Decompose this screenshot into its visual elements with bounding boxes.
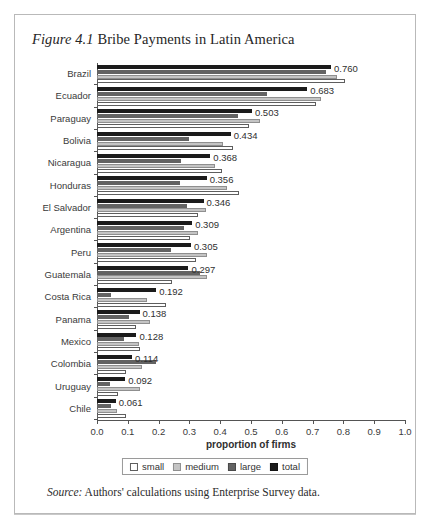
bar-large — [97, 204, 187, 208]
y-axis-tick — [94, 151, 97, 152]
category-label: Colombia — [11, 358, 91, 369]
bar-large — [97, 181, 180, 185]
bar-value-label: 0.114 — [135, 354, 158, 364]
bar-small — [97, 169, 222, 173]
x-axis-tick-label: 0.8 — [337, 426, 350, 437]
y-axis-tick — [94, 307, 97, 308]
bar-value-label: 0.061 — [119, 398, 143, 408]
category-label: Costa Rica — [11, 291, 91, 302]
bar-small — [97, 146, 233, 150]
bar-value-label: 0.346 — [207, 198, 231, 208]
bar-medium — [97, 320, 150, 324]
bar-small — [97, 258, 196, 262]
bar-medium — [97, 342, 139, 346]
bar-small — [97, 347, 140, 351]
y-axis-tick — [94, 84, 97, 85]
bar-group: Honduras0.356 — [97, 176, 405, 195]
figure-title-text: Bribe Payments in Latin America — [97, 31, 294, 47]
bar-value-label: 0.138 — [143, 309, 167, 319]
bar-group: Argentina0.309 — [97, 221, 405, 240]
y-axis-tick — [94, 218, 97, 219]
bar-value-label: 0.128 — [139, 332, 163, 342]
x-axis-tick — [128, 420, 129, 424]
bar-total — [97, 109, 252, 113]
bar-group: Paraguay0.503 — [97, 109, 405, 128]
x-axis-title: proportion of firms — [97, 439, 405, 450]
bar-small — [97, 79, 345, 83]
bar-medium — [97, 142, 223, 146]
x-axis-tick-label: 0.5 — [244, 426, 257, 437]
x-axis-tick — [405, 420, 406, 424]
legend-item-total: total — [270, 461, 300, 472]
bar-group: Colombia0.114 — [97, 355, 405, 374]
category-label: Argentina — [11, 224, 91, 235]
y-axis-tick — [94, 129, 97, 130]
bar-group: Guatemala0.297 — [97, 266, 405, 285]
x-axis-tick — [313, 420, 314, 424]
bar-total — [97, 176, 207, 180]
y-axis-tick — [94, 397, 97, 398]
bar-value-label: 0.305 — [194, 242, 218, 252]
bar-large — [97, 70, 326, 74]
bar-group: Uruguay0.092 — [97, 377, 405, 396]
x-axis-tick-label: 0.0 — [90, 426, 103, 437]
bar-small — [97, 124, 249, 128]
y-axis-tick — [94, 352, 97, 353]
x-axis-tick — [343, 420, 344, 424]
y-axis-tick — [94, 240, 97, 241]
bar-total — [97, 154, 210, 158]
legend-swatch-medium — [173, 463, 181, 471]
x-axis-tick-label: 0.1 — [121, 426, 134, 437]
bar-medium — [97, 387, 140, 391]
bar-total — [97, 333, 136, 337]
y-axis-tick — [94, 107, 97, 108]
bar-medium — [97, 298, 147, 302]
bar-value-label: 0.368 — [213, 153, 237, 163]
x-axis-tick — [189, 420, 190, 424]
bar-group: Ecuador0.683 — [97, 87, 405, 106]
source-label: Source: — [47, 486, 82, 498]
x-axis-tick-label: 0.9 — [368, 426, 381, 437]
bar-total — [97, 310, 140, 314]
x-axis-tick-label: 0.3 — [183, 426, 196, 437]
legend-label-total: total — [282, 461, 300, 472]
y-axis-tick — [94, 196, 97, 197]
x-axis-tick — [374, 420, 375, 424]
bar-group: El Salvador0.346 — [97, 199, 405, 218]
bar-total — [97, 199, 204, 203]
bar-total — [97, 288, 156, 292]
chart-plot: Brazil0.760Ecuador0.683Paraguay0.503Boli… — [15, 59, 417, 459]
bar-total — [97, 132, 231, 136]
bar-group: Mexico0.128 — [97, 333, 405, 352]
legend-item-small: small — [130, 461, 164, 472]
bars-container: Brazil0.760Ecuador0.683Paraguay0.503Boli… — [97, 63, 405, 420]
source-note: Source: Authors' calculations using Ente… — [47, 486, 320, 498]
legend-swatch-small — [130, 463, 138, 471]
x-axis-tick — [251, 420, 252, 424]
bar-total — [97, 65, 331, 69]
x-axis-tick-label: 0.7 — [306, 426, 319, 437]
bar-medium — [97, 231, 198, 235]
bar-medium — [97, 365, 142, 369]
category-label: Guatemala — [11, 269, 91, 280]
bar-group: Brazil0.760 — [97, 65, 405, 84]
bar-group: Chile0.061 — [97, 399, 405, 418]
x-axis-tick-label: 1.0 — [398, 426, 411, 437]
category-label: Chile — [11, 403, 91, 414]
x-axis-tick-label: 0.2 — [152, 426, 165, 437]
bar-medium — [97, 75, 337, 79]
legend-label-small: small — [142, 461, 164, 472]
y-axis-tick — [94, 263, 97, 264]
bar-medium — [97, 409, 117, 413]
bar-value-label: 0.760 — [334, 64, 358, 74]
bar-total — [97, 355, 132, 359]
y-axis-tick — [94, 174, 97, 175]
bar-small — [97, 280, 172, 284]
legend-label-medium: medium — [185, 461, 219, 472]
bar-medium — [97, 164, 215, 168]
bar-large — [97, 315, 129, 319]
figure-title: Figure 4.1 Bribe Payments in Latin Ameri… — [32, 31, 295, 48]
y-axis-tick — [94, 285, 97, 286]
category-label: El Salvador — [11, 202, 91, 213]
bar-small — [97, 370, 126, 374]
